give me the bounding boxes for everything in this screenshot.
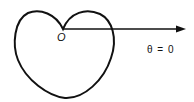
polar-axis-label: θ = 0 bbox=[147, 44, 175, 55]
cardioid-curve bbox=[15, 11, 114, 98]
origin-label: O bbox=[57, 32, 66, 43]
arrowhead-icon bbox=[176, 26, 186, 33]
